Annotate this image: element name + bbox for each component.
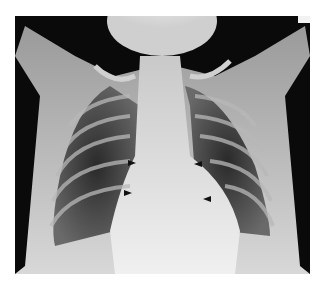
arrowhead-right-lower <box>203 196 211 202</box>
arrowhead-left-upper <box>128 160 136 166</box>
xray-film <box>15 16 310 274</box>
xray-anatomy <box>15 16 310 274</box>
film-marker <box>298 16 310 23</box>
arrowhead-left-lower <box>124 190 132 196</box>
arrowhead-right-upper <box>194 161 202 167</box>
